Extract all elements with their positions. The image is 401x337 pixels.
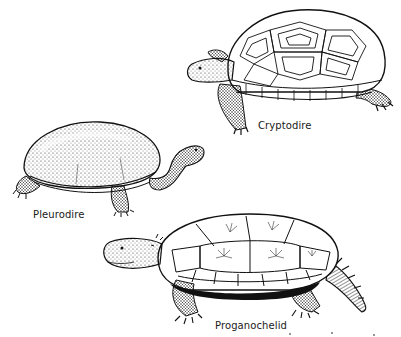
turtle-illustrations [0, 0, 401, 337]
print-specks [289, 332, 375, 336]
cryptodire-turtle [188, 10, 394, 135]
label-pleurodire: Pleurodire [33, 209, 84, 220]
label-cryptodire: Cryptodire [258, 120, 312, 131]
pleurodire-turtle [13, 122, 204, 217]
proganochelid-turtle [104, 214, 366, 324]
label-proganochelid: Proganochelid [215, 320, 287, 331]
turtle-comparison-figure: Cryptodire Pleurodire Proganochelid [0, 0, 401, 337]
